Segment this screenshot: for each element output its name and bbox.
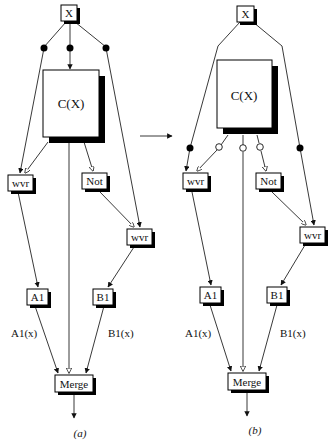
diagram-canvas: X C(X) wvr Not wvr A1 — [0, 0, 333, 447]
condition-dot — [257, 144, 264, 151]
svg-text:C(X): C(X) — [58, 96, 85, 111]
svg-text:wvr: wvr — [304, 229, 321, 241]
svg-text:wvr: wvr — [187, 175, 204, 187]
node-b1: B1 — [267, 287, 290, 306]
node-merge: Merge — [228, 373, 269, 393]
svg-text:wvr: wvr — [12, 177, 29, 189]
split-dot — [103, 45, 110, 52]
split-dot — [67, 45, 74, 52]
node-a1: A1 — [27, 289, 51, 308]
node-wvr-right: wvr — [127, 229, 155, 248]
svg-text:wvr: wvr — [131, 231, 148, 243]
svg-text:A1: A1 — [31, 291, 44, 303]
caption-b: (b) — [249, 424, 262, 437]
node-b1: B1 — [93, 289, 116, 308]
node-c: C(X) — [43, 70, 105, 143]
condition-dot — [240, 145, 247, 152]
svg-text:B1: B1 — [97, 291, 110, 303]
node-wvr-left: wvr — [183, 173, 211, 192]
svg-text:X: X — [242, 8, 250, 20]
edge-label-a1x: A1(x) — [185, 327, 212, 340]
node-x: X — [61, 5, 80, 24]
split-dot — [297, 145, 304, 152]
node-x: X — [237, 6, 257, 25]
node-wvr-left: wvr — [8, 175, 36, 194]
svg-text:X: X — [65, 7, 73, 19]
edge-label-b1x: B1(x) — [108, 327, 134, 340]
svg-text:Not: Not — [86, 175, 103, 187]
node-c: C(X) — [217, 60, 278, 134]
panel-a: X C(X) wvr Not wvr A1 — [8, 5, 155, 440]
svg-text:Merge: Merge — [233, 376, 262, 388]
panel-b: X C(X) wvr Not wvr A1 — [183, 6, 328, 437]
svg-text:Merge: Merge — [60, 378, 89, 390]
caption-a: (a) — [74, 427, 87, 440]
node-a1: A1 — [200, 287, 224, 306]
node-wvr-right: wvr — [300, 227, 328, 246]
edge-label-b1x: B1(x) — [280, 327, 306, 340]
split-dot — [187, 145, 194, 152]
node-merge: Merge — [55, 375, 96, 395]
svg-text:A1: A1 — [204, 289, 217, 301]
condition-dot — [216, 144, 223, 151]
svg-text:B1: B1 — [271, 289, 284, 301]
svg-text:C(X): C(X) — [231, 88, 258, 103]
node-not: Not — [82, 173, 110, 192]
split-dot — [41, 45, 48, 52]
svg-text:Not: Not — [260, 175, 277, 187]
edge-label-a1x: A1(x) — [11, 327, 38, 340]
node-not: Not — [256, 173, 284, 192]
